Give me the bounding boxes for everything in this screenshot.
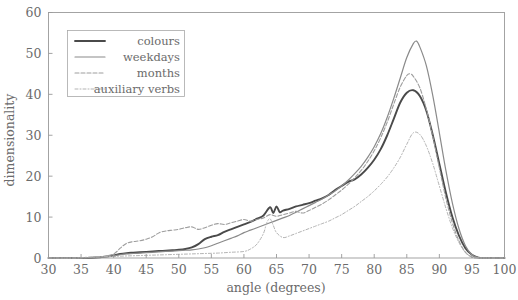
x-tick-label: 75 (334, 262, 350, 277)
legend-label: months (137, 66, 180, 80)
legend-label: weekdays (123, 50, 180, 64)
y-tick-label: 40 (26, 87, 42, 102)
x-tick-label: 65 (269, 262, 285, 277)
x-axis-ticks: 3035404550556065707580859095100 (41, 254, 517, 277)
x-tick-label: 85 (399, 262, 415, 277)
x-tick-label: 35 (73, 262, 89, 277)
x-tick-label: 55 (203, 262, 219, 277)
y-tick-label: 50 (26, 46, 42, 61)
x-tick-label: 40 (106, 262, 122, 277)
x-tick-label: 30 (41, 262, 57, 277)
x-tick-label: 60 (236, 262, 252, 277)
series-line (49, 74, 505, 258)
legend-label: auxiliary verbs (94, 82, 180, 96)
y-tick-label: 30 (26, 128, 42, 143)
x-tick-label: 90 (431, 262, 447, 277)
x-tick-label: 45 (138, 262, 154, 277)
legend-label: colours (137, 34, 180, 48)
x-tick-label: 50 (171, 262, 187, 277)
y-tick-label: 60 (26, 5, 42, 20)
y-axis-title: dimensionality (2, 93, 17, 187)
y-tick-label: 10 (26, 210, 42, 225)
y-tick-label: 0 (34, 251, 42, 266)
chart-legend: coloursweekdaysmonthsauxiliary verbs (68, 31, 185, 97)
line-chart: 3035404550556065707580859095100 01020304… (0, 0, 518, 300)
x-axis-title: angle (degrees) (226, 280, 325, 295)
y-tick-label: 20 (26, 169, 42, 184)
x-tick-label: 100 (493, 262, 517, 277)
chart-figure: 3035404550556065707580859095100 01020304… (0, 0, 518, 300)
x-tick-label: 95 (464, 262, 480, 277)
x-tick-label: 70 (301, 262, 317, 277)
x-tick-label: 80 (366, 262, 382, 277)
